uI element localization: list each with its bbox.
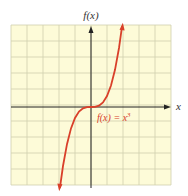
y-axis-label: f(x)	[83, 9, 99, 22]
curve-annotation: f(x) = x3	[97, 111, 131, 124]
cubic-function-chart: f(x) x f(x) = x3	[0, 0, 188, 196]
curve-bottom-arrow-icon	[57, 184, 62, 192]
curve-annotation-base: f(x) = x	[97, 112, 128, 124]
curve-annotation-exponent: 3	[126, 111, 131, 119]
x-axis-label: x	[175, 100, 181, 112]
